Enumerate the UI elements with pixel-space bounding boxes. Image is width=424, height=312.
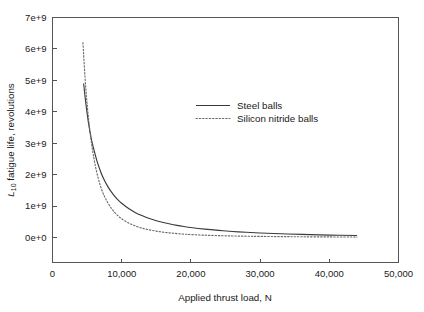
legend: Steel balls Silicon nitride balls bbox=[196, 100, 318, 124]
series-line-steel-balls bbox=[84, 84, 357, 236]
y-axis-title: L10 fatigue life, revolutions bbox=[5, 83, 17, 197]
legend-label-steel-balls: Steel balls bbox=[237, 100, 282, 111]
y-tick-label: 5e+9 bbox=[25, 75, 46, 86]
y-axis-ticks: 0e+01e+92e+93e+94e+95e+96e+97e+9 bbox=[25, 12, 56, 243]
plot-frame bbox=[53, 18, 399, 263]
x-axis-ticks: 010,00020,00030,00040,00050,000 bbox=[50, 259, 413, 279]
y-axis-title-subscript: 10 bbox=[10, 183, 17, 191]
axis-frame bbox=[53, 18, 399, 263]
x-tick-label: 10,000 bbox=[107, 268, 136, 279]
data-series-group bbox=[83, 43, 357, 237]
y-tick-label: 0e+0 bbox=[25, 232, 46, 243]
x-tick-label: 40,000 bbox=[315, 268, 344, 279]
y-tick-label: 2e+9 bbox=[25, 169, 46, 180]
y-tick-label: 6e+9 bbox=[25, 43, 46, 54]
x-tick-label: 0 bbox=[50, 268, 55, 279]
x-axis-title: Applied thrust load, N bbox=[178, 292, 272, 303]
x-tick-label: 20,000 bbox=[176, 268, 205, 279]
figure-container: 010,00020,00030,00040,00050,000 0e+01e+9… bbox=[0, 0, 424, 312]
y-tick-label: 1e+9 bbox=[25, 200, 46, 211]
y-tick-label: 3e+9 bbox=[25, 138, 46, 149]
series-line-silicon-nitride-balls bbox=[83, 43, 357, 237]
fatigue-life-chart: 010,00020,00030,00040,00050,000 0e+01e+9… bbox=[0, 0, 424, 312]
y-tick-label: 4e+9 bbox=[25, 106, 46, 117]
y-axis-title-rest: fatigue life, revolutions bbox=[5, 83, 16, 183]
x-tick-label: 50,000 bbox=[384, 268, 413, 279]
y-tick-label: 7e+9 bbox=[25, 12, 46, 23]
x-tick-label: 30,000 bbox=[246, 268, 275, 279]
legend-label-silicon-nitride-balls: Silicon nitride balls bbox=[237, 113, 318, 124]
